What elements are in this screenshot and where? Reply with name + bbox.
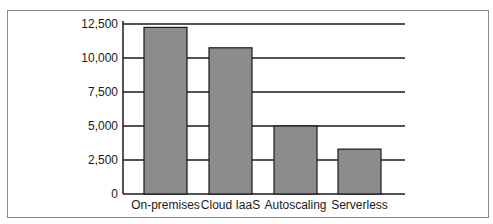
x-category-label: On-premises — [131, 198, 200, 212]
bar-autoscaling — [274, 126, 317, 194]
bar-cloud-iaas — [209, 48, 252, 194]
y-tick-labels: 02,5005,0007,50010,00012,500 — [81, 17, 118, 201]
y-tick-label: 12,500 — [81, 17, 118, 31]
bar-on-premises — [144, 27, 187, 194]
y-tick-label: 5,000 — [88, 119, 118, 133]
bars — [144, 27, 381, 194]
y-tick-label: 10,000 — [81, 51, 118, 65]
x-category-label: Cloud IaaS — [201, 198, 260, 212]
x-category-label: Autoscaling — [264, 198, 326, 212]
bar-chart: 02,5005,0007,50010,00012,500 On-premises… — [0, 0, 493, 224]
bar-serverless — [338, 149, 381, 194]
y-tick-label: 7,500 — [88, 85, 118, 99]
x-category-label: Serverless — [331, 198, 388, 212]
x-category-labels: On-premisesCloud IaaSAutoscalingServerle… — [131, 198, 388, 212]
y-tick-label: 2,500 — [88, 153, 118, 167]
y-tick-label: 0 — [111, 187, 118, 201]
